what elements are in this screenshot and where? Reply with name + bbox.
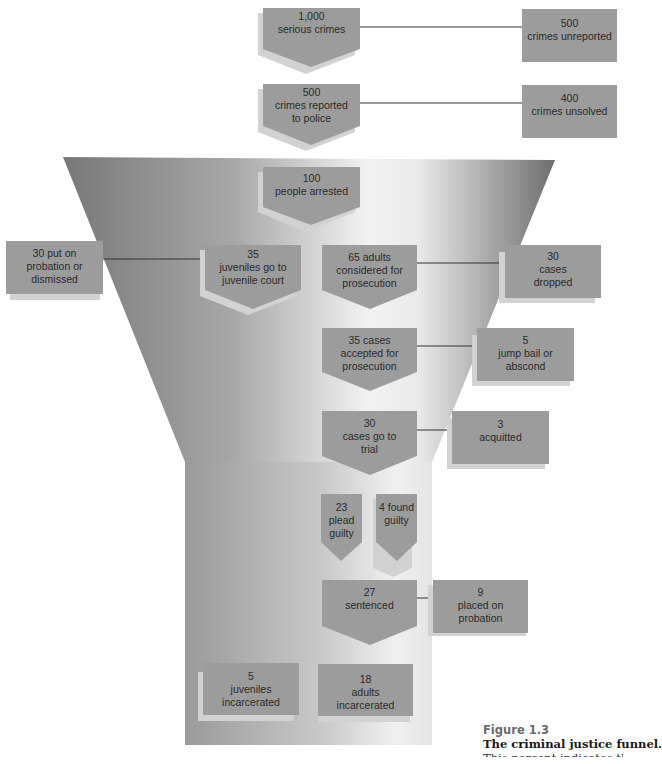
node-sentenced: 27 sentenced — [322, 586, 417, 612]
node-count: 4 found — [379, 501, 414, 514]
node-label: cases go to trial — [342, 430, 397, 456]
node-label: probation or dismissed — [20, 260, 90, 286]
node-count: 3 — [498, 418, 504, 431]
node-count: 5 — [523, 334, 529, 347]
node-crimes-reported: 500 crimes reported to police — [263, 86, 360, 125]
node-label: sentenced — [345, 599, 393, 612]
node-count: 30 put on — [33, 247, 77, 260]
node-label: considered for prosecution — [329, 264, 411, 290]
figure-body-truncated: This percent indicates that — [483, 752, 623, 757]
node-crimes-unsolved: 400 crimes unsolved — [522, 92, 617, 118]
node-jump-bail: 5 jump bail or abscond — [477, 334, 574, 373]
node-count: 23 — [336, 501, 348, 514]
node-count: 65 adults — [348, 251, 391, 264]
node-label: adults incarcerated — [330, 686, 402, 712]
node-count: 400 — [561, 92, 579, 105]
node-placed-probation: 9 placed on probation — [433, 586, 528, 625]
node-label: crimes reported to police — [271, 99, 353, 125]
node-count: 18 — [360, 673, 372, 686]
node-probation-dismissed: 30 put on probation or dismissed — [6, 247, 103, 286]
figure-caption: Figure 1.3 The criminal justice funnel. … — [483, 723, 623, 757]
node-adults-considered: 65 adults considered for prosecution — [322, 251, 417, 290]
node-plead-guilty: 23 plead guilty — [321, 501, 362, 540]
node-label: juveniles go to juvenile court — [212, 261, 294, 287]
node-count: 500 — [303, 86, 321, 99]
node-cases-trial: 30 cases go to trial — [322, 417, 417, 456]
figure-title: The criminal justice funnel. — [483, 737, 623, 752]
node-count: 5 — [248, 670, 254, 683]
figure-number: Figure 1.3 — [483, 723, 623, 737]
node-count: 27 — [364, 586, 376, 599]
node-label: jump bail or abscond — [495, 347, 557, 373]
node-label: accepted for prosecution — [332, 347, 407, 373]
node-cases-dropped: 30 cases dropped — [505, 250, 601, 289]
node-label: people arrested — [275, 185, 348, 198]
node-adults-incarcerated: 18 adults incarcerated — [318, 673, 413, 712]
node-count: 35 — [247, 248, 259, 261]
node-label: plead guilty — [324, 514, 360, 540]
node-count: 1,000 — [298, 10, 324, 23]
node-label: crimes unsolved — [532, 105, 608, 118]
node-count: 500 — [561, 17, 579, 30]
node-acquitted: 3 acquitted — [452, 418, 549, 444]
node-label: cases dropped — [531, 263, 576, 289]
node-count: 35 cases — [348, 334, 390, 347]
node-label: juveniles incarcerated — [215, 683, 287, 709]
node-label: placed on probation — [447, 599, 515, 625]
node-count: 9 — [478, 586, 484, 599]
node-juveniles-court: 35 juveniles go to juvenile court — [205, 248, 301, 287]
node-label: crimes unreported — [527, 30, 612, 43]
node-label: acquitted — [479, 431, 522, 444]
node-juveniles-incarcerated: 5 juveniles incarcerated — [203, 670, 299, 709]
node-count: 30 — [364, 417, 376, 430]
node-cases-accepted: 35 cases accepted for prosecution — [322, 334, 417, 373]
node-label: serious crimes — [278, 23, 346, 36]
node-people-arrested: 100 people arrested — [263, 172, 360, 198]
node-count: 30 — [547, 250, 559, 263]
node-label: guilty — [384, 514, 409, 527]
node-crimes-unreported: 500 crimes unreported — [522, 17, 617, 43]
node-found-guilty: 4 found guilty — [374, 501, 419, 527]
node-serious-crimes: 1,000 serious crimes — [263, 10, 360, 36]
node-count: 100 — [303, 172, 321, 185]
